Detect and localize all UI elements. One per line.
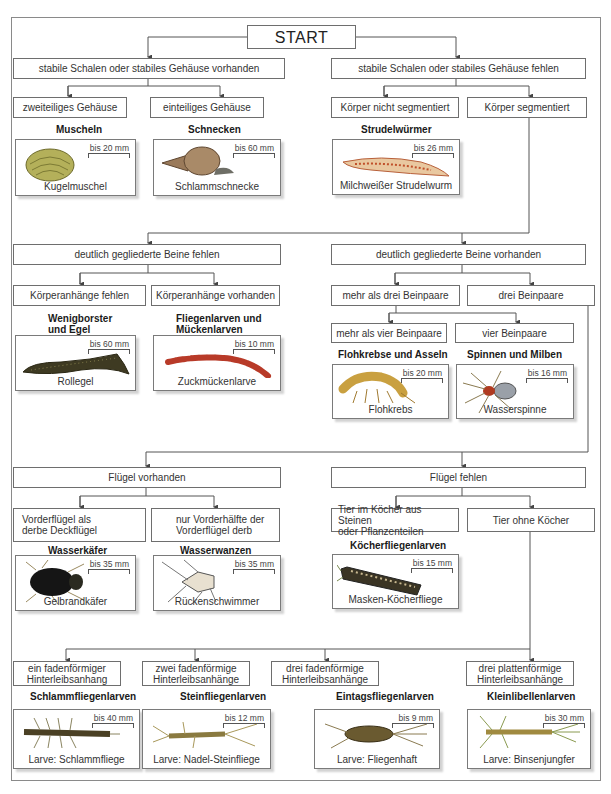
size-label: bis 35 mm <box>90 559 129 569</box>
species-name: Rollegel <box>16 376 135 387</box>
size-label: bis 15 mm <box>413 558 452 568</box>
node-two-part-shell: zweiteiliges Gehäuse <box>13 97 127 118</box>
scale-bar <box>88 569 130 574</box>
card-wasserspinne: bis 16 mm Wasserspinne <box>456 364 574 419</box>
node-no-case: Tier ohne Köcher <box>467 508 595 532</box>
node-more-than-four-pairs: mehr als vier Beinpaare <box>331 323 447 343</box>
scale-bar <box>92 723 134 728</box>
node-three-pairs: drei Beinpaare <box>467 285 595 306</box>
node-line: zwei fadenförmige <box>155 663 236 674</box>
card-rollegel: bis 60 mm Rollegel <box>15 335 136 391</box>
scale-bar <box>233 349 275 354</box>
scale-bar <box>223 723 265 728</box>
card-fliegenhaft: bis 9 mm Larve: Fliegenhaft <box>314 709 440 769</box>
scale-bar <box>526 378 568 383</box>
size-label: bis 20 mm <box>403 368 442 378</box>
group-line: und Egel <box>48 324 112 335</box>
size-label: bis 60 mm <box>235 143 274 153</box>
species-name: Schlammschnecke <box>154 181 280 192</box>
size-label: bis 9 mm <box>399 713 433 723</box>
clam-icon <box>24 144 76 182</box>
species-name: Larve: Fliegenhaft <box>315 754 439 765</box>
group-wenigborster: Wenigborsterund Egel <box>48 313 112 335</box>
node-line: drei fadenförmige <box>286 663 364 674</box>
group-schnecken: Schnecken <box>188 124 241 135</box>
species-name: Wasserspinne <box>457 404 573 415</box>
size-label: bis 16 mm <box>528 368 567 378</box>
scale-bar <box>88 349 130 354</box>
node-line: ein fadenförmiger <box>28 663 106 674</box>
size-label: bis 10 mm <box>235 339 274 349</box>
card-steinfliege: bis 12 mm Larve: Nadel-Steinfliege <box>142 709 271 769</box>
leech-icon <box>21 350 131 378</box>
group-schlammfliegen: Schlammfliegenlarven <box>30 691 136 702</box>
node-line: drei plattenförmige <box>479 663 562 674</box>
node-body-segmented: Körper segmentiert <box>467 97 587 118</box>
start-node: START <box>247 25 356 49</box>
node-line: derbe Deckflügel <box>22 525 97 536</box>
scale-bar <box>233 153 275 158</box>
group-spinnen: Spinnen und Milben <box>467 349 562 360</box>
scale-bar <box>401 378 443 383</box>
species-name: Flohkrebs <box>333 404 448 415</box>
node-shells-present: stabile Schalen oder stabiles Gehäuse vo… <box>13 58 285 79</box>
card-schlammfliege: bis 40 mm Larve: Schlammfliege <box>13 709 140 769</box>
node-appendages-absent: Körperanhänge fehlen <box>13 285 146 306</box>
size-label: bis 30 mm <box>545 713 584 723</box>
species-name: Larve: Binsenjungfer <box>468 754 590 765</box>
scale-bar <box>392 723 434 728</box>
group-flohkrebse: Flohkrebse und Asseln <box>338 349 448 360</box>
node-line: Vorderflügel als <box>22 514 91 525</box>
node-line: Hinterleibsanhänge <box>282 674 368 685</box>
node-one-thread-appendage: ein fadenförmigerHinterleibsanhang <box>13 661 121 686</box>
group-koecherfliegen: Köcherfliegenlarven <box>350 540 446 551</box>
scale-bar <box>88 153 130 158</box>
species-name: Zuckmückenlarve <box>154 376 280 387</box>
group-muscheln: Muscheln <box>56 124 102 135</box>
node-appendages-present: Körperanhänge vorhanden <box>151 285 280 306</box>
node-wings-present: Flügel vorhanden <box>13 467 281 488</box>
node-shells-absent: stabile Schalen oder stabiles Gehäuse fe… <box>331 58 586 79</box>
species-name: Masken-Köcherfliege <box>333 594 458 605</box>
scale-bar <box>412 153 454 158</box>
node-line: Tier im Köcher aus Steinen <box>338 504 458 526</box>
card-kugelmuschel: bis 20 mm Kugelmuschel <box>15 139 136 196</box>
species-name: Kugelmuschel <box>16 181 135 192</box>
card-rueckenschwimmer: bis 35 mm Rückenschwimmer <box>153 555 281 611</box>
size-label: bis 12 mm <box>225 713 264 723</box>
species-name: Larve: Nadel-Steinfliege <box>143 754 270 765</box>
species-name: Rückenschwimmer <box>154 596 280 607</box>
card-gelbrandkaefer: bis 35 mm Gelbrandkäfer <box>15 555 136 611</box>
size-label: bis 60 mm <box>90 339 129 349</box>
node-three-plate-appendages: drei plattenförmigeHinterleibsanhänge <box>466 661 574 686</box>
card-masken-koecherfliege: bis 15 mm Masken-Köcherfliege <box>332 554 459 609</box>
node-line: nur Vorderhälfte der <box>176 514 264 525</box>
group-strudelwuermer: Strudelwürmer <box>361 124 432 135</box>
group-line: Fliegenlarven und <box>176 313 262 324</box>
card-binsenjungfer: bis 30 mm Larve: Binsenjungfer <box>467 709 591 769</box>
node-legs-present: deutlich gegliederte Beine vorhanden <box>331 244 586 265</box>
group-line: Mückenlarven <box>176 324 262 335</box>
node-four-pairs: vier Beinpaare <box>455 323 574 343</box>
node-legs-absent: deutlich gegliederte Beine fehlen <box>13 244 281 265</box>
group-fliegenlarven: Fliegenlarven undMückenlarven <box>176 313 262 335</box>
card-flohkrebs: bis 20 mm Flohkrebs <box>332 364 449 419</box>
card-strudelwurm: bis 26 mm Milchweißer Strudelwurm <box>332 139 460 195</box>
node-one-part-shell: einteiliges Gehäuse <box>150 97 264 118</box>
snail-icon <box>158 143 238 181</box>
group-steinfliegen: Steinfliegenlarven <box>180 691 266 702</box>
size-label: bis 40 mm <box>94 713 133 723</box>
node-two-thread-appendages: zwei fadenförmigeHinterleibsanhänge <box>142 661 250 686</box>
node-case-animal: Tier im Köcher aus Steinenoder Pflanzent… <box>331 508 459 532</box>
node-line: Vorderflügel derb <box>176 525 252 536</box>
group-eintagsfliegen: Eintagsfliegenlarven <box>336 691 434 702</box>
scale-bar <box>543 723 585 728</box>
size-label: bis 35 mm <box>235 559 274 569</box>
size-label: bis 20 mm <box>90 143 129 153</box>
node-line: Hinterleibsanhänge <box>153 674 239 685</box>
scale-bar <box>233 569 275 574</box>
midge-larva-icon <box>164 352 274 378</box>
species-name: Milchweißer Strudelwurm <box>333 180 459 191</box>
node-line: Hinterleibsanhang <box>27 674 108 685</box>
node-half-forewings-hard: nur Vorderhälfte derVorderflügel derb <box>151 508 280 542</box>
